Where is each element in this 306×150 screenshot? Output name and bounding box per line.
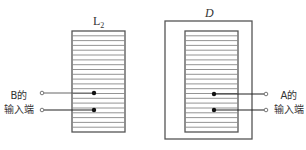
a-terminal-1 xyxy=(264,92,268,96)
b-terminal-1 xyxy=(40,91,44,95)
a-tap-dot-2 xyxy=(212,108,216,112)
coil-diagram: L2 B的 输入端 D A的 输入端 xyxy=(0,0,306,150)
a-label-line2: 输入端 xyxy=(274,103,304,115)
device-d-enclosure xyxy=(165,21,252,139)
b-tap-dot-1 xyxy=(92,91,96,95)
coil-l2-label: L2 xyxy=(93,14,104,30)
a-terminal-2 xyxy=(264,108,268,112)
a-tap-dot-1 xyxy=(212,92,216,96)
device-d-label: D xyxy=(204,6,214,20)
a-label-line1: A的 xyxy=(281,89,298,101)
b-tap-dot-2 xyxy=(92,108,96,112)
b-label-line1: B的 xyxy=(11,89,28,101)
device-d-coil xyxy=(185,31,238,132)
b-label-line2: 输入端 xyxy=(4,103,34,115)
coil-l2-body xyxy=(72,31,125,132)
coil-l2-windings xyxy=(72,36,125,127)
device-d-windings xyxy=(185,36,238,127)
device-d: D A的 输入端 xyxy=(165,6,304,139)
coil-l2: L2 B的 输入端 xyxy=(4,14,125,132)
b-terminal-2 xyxy=(40,108,44,112)
